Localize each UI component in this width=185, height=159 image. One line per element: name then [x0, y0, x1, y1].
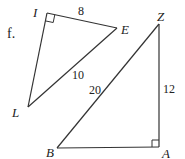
- triangle-zba: Z B A 20 12: [46, 9, 175, 159]
- side-zb: [57, 24, 159, 148]
- side-length-za: 12: [163, 82, 175, 96]
- vertex-label-a: A: [161, 146, 170, 159]
- vertex-label-l: L: [11, 105, 19, 120]
- triangle-diagram: f. I E L 8 10 Z B A 20 12: [0, 0, 185, 159]
- vertex-label-z: Z: [157, 9, 165, 24]
- vertex-label-i: I: [32, 5, 38, 20]
- side-length-le: 10: [72, 68, 84, 82]
- vertex-label-b: B: [46, 145, 54, 159]
- triangle-ile: I E L 8 10: [11, 4, 129, 120]
- side-ba: [57, 147, 159, 148]
- problem-label: f.: [7, 26, 15, 41]
- vertex-label-e: E: [120, 22, 129, 37]
- side-length-ie: 8: [78, 4, 84, 18]
- side-length-bz: 20: [89, 83, 101, 97]
- right-angle-marker-a: [152, 140, 159, 147]
